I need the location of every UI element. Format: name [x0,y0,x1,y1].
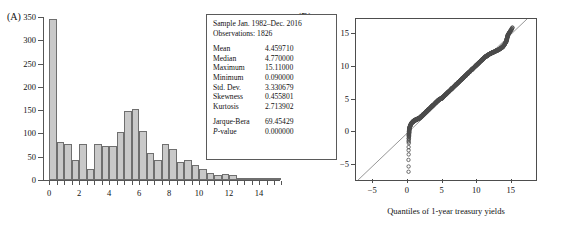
x-tick [207,181,208,185]
stats-row: Jarque-Bera69.45429 [213,117,330,127]
y-tick-label: 250 [8,59,36,69]
stats-row-key: Median [213,54,265,64]
histogram-bar [252,178,259,180]
x-tick [124,181,125,185]
y-tick-label: 50 [8,152,36,162]
qq-point [407,153,410,156]
histogram-bar [199,169,206,180]
stats-row-value: 0.090000 [265,73,293,83]
qq-point [407,158,410,161]
stats-row: Maximum15.11000 [213,63,330,73]
x-tick-label: −5 [360,185,384,195]
x-tick [252,181,253,185]
stats-row-key: Maximum [213,63,265,73]
panel-b-plot-frame [355,18,537,181]
stats-row-value: 4.459710 [265,44,293,54]
x-tick [274,181,275,185]
y-tick [38,110,43,111]
histogram-bar [274,178,281,180]
qq-point [407,170,410,173]
histogram-bar [222,174,229,180]
x-tick [87,181,88,185]
histogram-bar [117,132,124,180]
stats-observations: Observations: 1826 [213,29,330,39]
stats-row: Minimum0.090000 [213,73,330,83]
histogram-bar [162,144,169,180]
y-tick [38,17,43,18]
x-tick [476,179,477,183]
histogram-bar [79,144,86,180]
histogram-bar [94,144,101,180]
stats-row: Median4.770000 [213,54,330,64]
histogram-bar [184,160,191,180]
x-tick [49,181,50,185]
stats-row-key: Jarque-Bera [213,117,265,127]
x-tick-label: 15 [499,185,523,195]
histogram-bar [207,173,214,180]
stats-row: P-value0.000000 [213,127,330,137]
stats-row-key: Mean [213,44,265,54]
stats-row-value: 3.330679 [265,83,293,93]
x-tick [94,181,95,185]
y-tick-label: 150 [8,105,36,115]
y-tick [351,131,355,132]
x-tick [442,179,443,183]
figure-container: (A) 050100150200250300350 02468101214 Sa… [0,0,563,231]
histogram-bar [267,178,274,180]
stats-row-key: Kurtosis [213,102,265,112]
x-tick-label: 0 [395,185,419,195]
x-tick [57,181,58,185]
x-tick [267,181,268,185]
histogram-bar [57,142,64,180]
x-tick [147,181,148,185]
stats-row-key: Minimum [213,73,265,83]
x-tick [64,181,65,185]
y-tick-label: 300 [8,35,36,45]
stats-row-value: 4.770000 [265,54,293,64]
stats-row-value: 69.45429 [265,117,293,127]
x-tick-label: 14 [249,188,269,198]
histogram-bar [109,146,116,180]
x-tick [192,181,193,185]
x-tick [214,181,215,185]
x-tick-label: 2 [69,188,89,198]
stats-row: Kurtosis2.713902 [213,102,330,112]
x-tick [229,181,230,185]
stats-rows: Mean4.459710Median4.770000Maximum15.1100… [213,44,330,111]
histogram-bar [192,165,199,180]
statistics-box: Sample Jan. 1982–Dec. 2016 Observations:… [206,14,337,160]
x-tick [511,179,512,183]
stats-test-rows: Jarque-Bera69.45429P-value0.000000 [213,117,330,136]
x-tick-label: 10 [189,188,209,198]
x-tick-label: 8 [159,188,179,198]
y-tick-label: 350 [8,12,36,22]
x-tick [244,181,245,185]
y-tick [351,99,355,100]
y-tick-label: 100 [8,128,36,138]
histogram-bar [214,175,221,180]
stats-sample-period: Sample Jan. 1982–Dec. 2016 [213,19,330,29]
x-tick [184,181,185,185]
y-tick-label: 0 [8,175,36,185]
stats-row-key: P-value [213,127,265,137]
histogram-bar [72,160,79,180]
x-tick [117,181,118,185]
x-tick [407,179,408,183]
x-tick [109,181,110,185]
x-tick [139,181,140,185]
histogram-bar [132,109,139,180]
x-tick-label: 5 [430,185,454,195]
stats-row-value: 2.713902 [265,102,293,112]
histogram-bar [139,131,146,180]
y-tick [38,133,43,134]
x-tick [169,181,170,185]
stats-row: Mean4.459710 [213,44,330,54]
y-tick [38,64,43,65]
y-tick [351,164,355,165]
stats-row-value: 0.455801 [265,92,293,102]
x-tick [199,181,200,185]
histogram-bar [169,149,176,180]
panel-a-histogram: (A) 050100150200250300350 02468101214 Sa… [0,0,290,231]
x-tick [132,181,133,185]
x-tick [222,181,223,185]
